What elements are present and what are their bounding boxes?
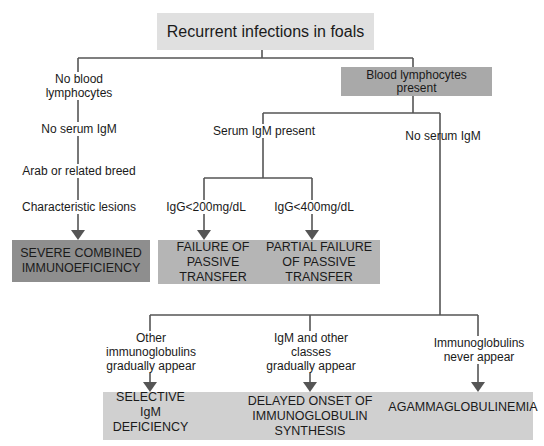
fpt-outcome: FAILURE OF PASSIVE TRANSFER (168, 240, 258, 284)
no-blood-lymphocytes-label: No blood lymphocytes (33, 72, 125, 100)
no-serum-igm-label: No serum IgM (400, 129, 486, 143)
title-box: Recurrent infections in foals (157, 13, 374, 50)
igg-200-label: IgG<200mg/dL (164, 200, 248, 214)
igm-other-appear-label: IgM and other classes gradually appear (265, 331, 357, 373)
blood-lymphocytes-present-box: Blood lymphocytes present (341, 67, 492, 96)
left-step-characteristic-lesions: Characteristic lesions (18, 200, 140, 214)
igg-400-label: IgG<400mg/dL (272, 200, 356, 214)
left-step-no-serum-igm: No serum IgM (33, 122, 125, 136)
delayed-onset-outcome: DELAYED ONSET OF IMMUNOGLOBULIN SYNTHESI… (243, 392, 377, 440)
left-step-arab-breed: Arab or related breed (18, 164, 140, 178)
agammaglobulinemia-outcome: AGAMMAGLOBULINEMIA (393, 392, 533, 416)
partial-fpt-outcome: PARTIAL FAILURE OF PASSIVE TRANSFER (258, 240, 380, 284)
selective-igm-deficiency-outcome: SELECTIVE IgM DEFICIENCY (103, 392, 198, 432)
scid-outcome-box: SEVERE COMBINED IMMUNOEFICIENCY (12, 240, 150, 282)
diagram-title: Recurrent infections in foals (167, 23, 364, 41)
bottom-outcomes-box: SELECTIVE IgM DEFICIENCY DELAYED ONSET O… (103, 392, 533, 440)
serum-igm-present-label: Serum IgM present (203, 124, 325, 138)
passive-transfer-box: FAILURE OF PASSIVE TRANSFER PARTIAL FAIL… (158, 240, 380, 284)
ig-never-appear-label: Immunoglobulins never appear (428, 336, 530, 364)
other-ig-appear-label: Other immunoglobulins gradually appear (105, 331, 197, 373)
